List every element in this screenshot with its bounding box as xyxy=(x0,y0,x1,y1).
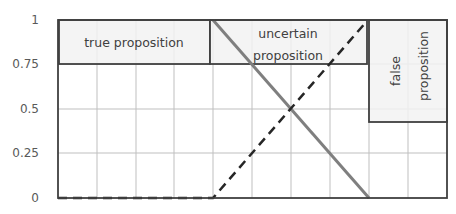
false-proposition-label-1: false xyxy=(388,56,403,86)
chart-plot: true proposition uncertain proposition f… xyxy=(0,0,456,214)
false-proposition-label-2: proposition xyxy=(416,31,431,101)
true-proposition-box: true proposition xyxy=(59,20,210,64)
uncertain-proposition-label-1: uncertain xyxy=(258,26,318,41)
uncertain-proposition-label-2: proposition xyxy=(253,48,323,63)
false-proposition-box: false proposition xyxy=(369,20,447,122)
true-proposition-label: true proposition xyxy=(84,35,184,50)
